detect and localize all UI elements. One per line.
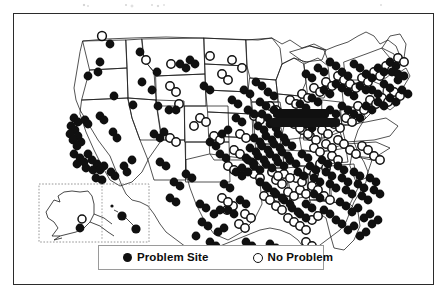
hawaii-marker-problem-2 — [131, 224, 140, 233]
figure-frame: Problem Site No Problem — [13, 13, 434, 285]
figure-container: Problem Site No Problem — [0, 0, 448, 299]
hawaii-marker-problem-1 — [117, 211, 126, 220]
alaska-marker-problem — [76, 224, 85, 233]
hawaii-islet-dot — [110, 204, 113, 207]
open-circle-icon — [253, 253, 263, 263]
legend-item-problem-site: Problem Site — [123, 252, 209, 264]
filled-circle-icon — [123, 253, 132, 262]
alaska-marker-no-problem — [78, 215, 86, 223]
scan-noise — [0, 0, 448, 12]
legend-item-no-problem: No Problem — [253, 252, 334, 264]
legend-label-problem-site: Problem Site — [137, 252, 209, 264]
insets-group — [39, 184, 149, 242]
legend-label-no-problem: No Problem — [268, 252, 334, 264]
map-legend: Problem Site No Problem — [98, 245, 324, 270]
